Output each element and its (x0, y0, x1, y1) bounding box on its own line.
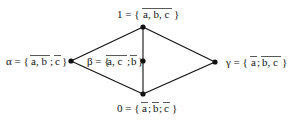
svg-text:;: ; (127, 55, 130, 67)
svg-text:1 = {: 1 = { (117, 8, 139, 20)
svg-text:}: } (282, 56, 287, 68)
node-alpha (68, 58, 73, 63)
svg-text:;: ; (159, 102, 162, 114)
svg-text:}: } (172, 102, 177, 114)
svg-text:a: a (251, 56, 256, 68)
svg-text:}: } (138, 55, 143, 67)
svg-text:;: ; (148, 102, 151, 114)
svg-text:a: a (142, 102, 147, 114)
svg-text:0 = {: 0 = { (117, 102, 139, 114)
svg-text:}: } (174, 8, 179, 20)
svg-text:γ = {: γ = { (225, 56, 248, 68)
svg-text:a, b: a, b (31, 55, 47, 67)
node-bottom (140, 91, 145, 96)
label-gamma: γ = { a ; b, c } (225, 56, 287, 68)
label-beta: β = { a, c ; b } (87, 55, 143, 67)
svg-text:b: b (131, 55, 137, 67)
svg-text:b, c: b, c (262, 56, 278, 68)
svg-text:;: ; (257, 56, 260, 68)
svg-text:α = {: α = { (6, 55, 29, 67)
svg-text:}: } (62, 55, 67, 67)
svg-text:a, b, c: a, b, c (143, 8, 169, 20)
edge-top-gamma (143, 27, 215, 62)
svg-text:;: ; (50, 55, 53, 67)
svg-text:c: c (164, 102, 169, 114)
node-gamma (212, 59, 217, 64)
label-top: 1 = { a, b, c } (117, 8, 179, 20)
lattice-diagram: 1 = { a, b, c } α = { a, b ; c } β = { a… (0, 0, 292, 120)
label-bottom: 0 = { a ; b ; c } (117, 102, 177, 114)
svg-text:c: c (55, 55, 60, 67)
label-alpha: α = { a, b ; c } (6, 55, 67, 67)
svg-text:a, c: a, c (107, 55, 122, 67)
node-top (140, 24, 145, 29)
edge-gamma-bottom (143, 62, 215, 94)
